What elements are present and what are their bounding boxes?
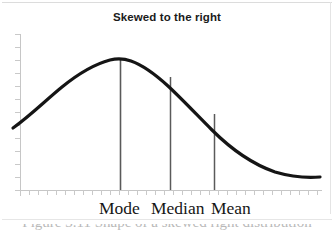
label-mode: Mode	[99, 198, 140, 219]
figure-container: Skewed to the right	[0, 0, 334, 232]
label-mean: Mean	[211, 198, 251, 219]
label-median: Median	[151, 198, 204, 219]
caption-divider	[2, 219, 332, 220]
figure-caption: Figure 3.11 Shape of a skewed right dist…	[0, 224, 334, 231]
figure-caption-strip: Figure 3.11 Shape of a skewed right dist…	[0, 224, 334, 232]
y-axis-ticks	[15, 35, 20, 191]
density-curve	[13, 59, 320, 177]
